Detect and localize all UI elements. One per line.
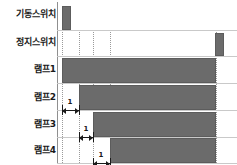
interval-label-lamp-2: 1 <box>68 99 73 106</box>
signal-bar-lamp-2 <box>79 85 216 110</box>
waveform-plot-area: 111 <box>0 0 237 165</box>
signal-bar-stop-switch <box>215 33 224 56</box>
interval-arrow-lamp-2 <box>62 110 79 111</box>
interval-label-lamp-4: 1 <box>99 152 104 159</box>
interval-label-lamp-3: 1 <box>84 126 89 133</box>
interval-tick-lamp-2-1 <box>79 105 80 115</box>
interval-tick-lamp-4-0 <box>93 158 94 165</box>
baseline-lamp-2 <box>57 110 237 111</box>
interval-tick-lamp-3-0 <box>79 132 80 142</box>
baseline-lamp-1 <box>57 83 237 84</box>
baseline-lamp-4 <box>57 163 237 164</box>
interval-tick-lamp-2-0 <box>62 105 63 115</box>
interval-arrow-lamp-3 <box>79 137 93 138</box>
interval-arrow-lamp-4 <box>93 163 110 164</box>
baseline-stop-switch <box>57 56 237 57</box>
signal-bar-lamp-4 <box>110 138 216 163</box>
timing-diagram: 기동스위치정지스위치램프1램프2램프3램프4 111 <box>0 0 237 165</box>
signal-bar-start-switch <box>62 6 71 30</box>
interval-tick-lamp-4-1 <box>110 158 111 165</box>
interval-tick-lamp-3-1 <box>93 132 94 142</box>
gridline-0 <box>62 30 63 163</box>
baseline-start-switch <box>57 30 237 31</box>
signal-bar-lamp-3 <box>93 112 216 137</box>
signal-bar-lamp-1 <box>62 58 216 83</box>
